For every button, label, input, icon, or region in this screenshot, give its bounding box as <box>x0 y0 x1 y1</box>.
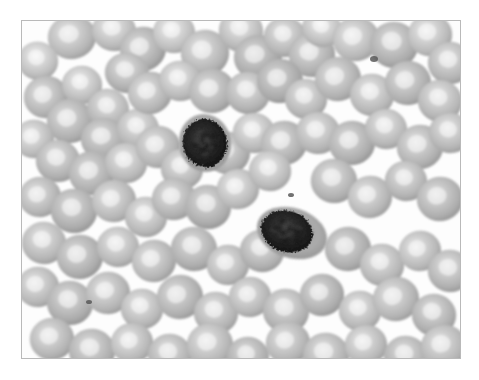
micrograph-frame <box>21 20 461 359</box>
smear-canvas <box>22 21 460 358</box>
blood-smear-field <box>22 21 460 358</box>
platelet <box>370 56 378 62</box>
erythrocyte-layer <box>22 21 460 358</box>
platelet <box>288 193 294 197</box>
image-viewport: peripheral blood smear light microscopy,… <box>0 0 479 380</box>
platelet <box>86 300 92 304</box>
